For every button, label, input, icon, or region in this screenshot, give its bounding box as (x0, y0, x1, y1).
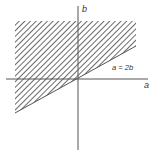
y-axis-label: b (82, 4, 87, 14)
x-axis-label: a (144, 80, 149, 90)
region-diagram: b a a = 2b (0, 0, 153, 155)
line-label: a = 2b (112, 63, 133, 72)
